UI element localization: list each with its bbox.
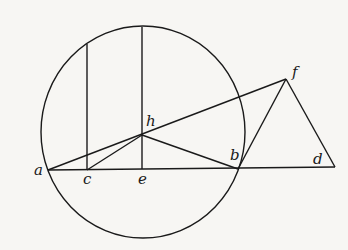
label-d: d (313, 152, 323, 167)
circle (41, 26, 245, 238)
line-f-d (286, 79, 335, 167)
line-h-b (142, 135, 238, 169)
label-a: a (34, 163, 43, 178)
line-a-f (48, 79, 286, 170)
diagram-canvas (0, 0, 348, 250)
label-f: f (292, 65, 298, 80)
label-e: e (138, 172, 147, 187)
label-c: c (83, 172, 91, 187)
label-b: b (230, 148, 240, 163)
geometry-diagram: a c e h b d f (0, 0, 348, 250)
label-h: h (146, 114, 156, 129)
